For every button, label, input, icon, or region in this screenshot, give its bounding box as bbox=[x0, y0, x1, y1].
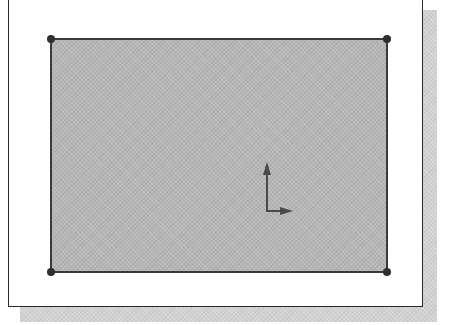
vertex-top-right[interactable] bbox=[383, 35, 391, 43]
vertex-top-left[interactable] bbox=[47, 35, 55, 43]
coordinate-axes-icon bbox=[255, 160, 295, 216]
y-axis-arrow-icon bbox=[263, 162, 271, 212]
x-axis-arrow-icon bbox=[267, 207, 293, 215]
vertex-bottom-left[interactable] bbox=[47, 268, 55, 276]
sketch-rectangle[interactable] bbox=[50, 38, 388, 273]
cad-sketch-canvas[interactable] bbox=[0, 0, 451, 325]
vertex-bottom-right[interactable] bbox=[383, 268, 391, 276]
